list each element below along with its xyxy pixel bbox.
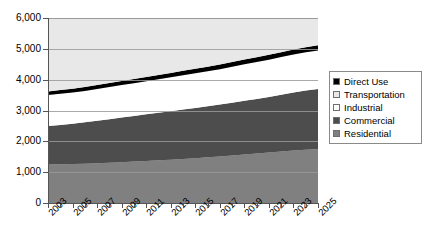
y-axis-label: 1,000: [1, 167, 41, 177]
gridline: [48, 141, 318, 142]
gridline: [48, 111, 318, 112]
legend-item-label: Industrial: [344, 102, 383, 113]
x-axis-tick: [109, 204, 110, 208]
legend-swatch-icon: [333, 78, 340, 85]
legend-item[interactable]: Commercial: [333, 114, 417, 127]
y-axis-label: 2,000: [1, 136, 41, 146]
y-axis-label: 3,000: [1, 106, 41, 116]
legend-item-label: Transportation: [344, 89, 405, 100]
gridline: [48, 80, 318, 81]
y-axis-label: 5,000: [1, 44, 41, 54]
legend-item[interactable]: Residential: [333, 127, 417, 140]
y-axis-tick: [43, 49, 48, 50]
chart-legend: Direct UseTransportationIndustrialCommer…: [329, 71, 422, 144]
y-axis-tick: [43, 172, 48, 173]
stacked-area-chart: 6,0005,0004,0003,0002,0001,0000 20032005…: [0, 0, 430, 250]
legend-item[interactable]: Direct Use: [333, 75, 417, 88]
y-axis-label: 0: [1, 198, 41, 208]
y-axis-line: [48, 18, 49, 204]
y-axis-tick: [43, 80, 48, 81]
x-axis-tick: [208, 204, 209, 208]
x-axis-tick: [257, 204, 258, 208]
y-axis-tick: [43, 18, 48, 19]
legend-swatch-icon: [333, 91, 340, 98]
legend-item[interactable]: Industrial: [333, 101, 417, 114]
legend-item-label: Commercial: [344, 115, 395, 126]
y-axis-tick: [43, 141, 48, 142]
x-axis-tick: [306, 204, 307, 208]
legend-item[interactable]: Transportation: [333, 88, 417, 101]
y-axis-tick: [43, 111, 48, 112]
x-axis-tick: [158, 204, 159, 208]
x-axis-tick: [134, 204, 135, 208]
legend-item-label: Residential: [344, 128, 391, 139]
gridline: [48, 49, 318, 50]
x-axis-tick: [281, 204, 282, 208]
legend-item-label: Direct Use: [344, 76, 388, 87]
legend-swatch-icon: [333, 104, 340, 111]
y-axis-label: 4,000: [1, 75, 41, 85]
legend-swatch-icon: [333, 130, 340, 137]
y-axis-label: 6,000: [1, 13, 41, 23]
x-axis-tick: [232, 204, 233, 208]
x-axis-tick: [60, 204, 61, 208]
legend-swatch-icon: [333, 117, 340, 124]
x-axis-label: 2025: [316, 195, 339, 218]
gridline: [48, 172, 318, 173]
x-axis-tick: [183, 204, 184, 208]
x-axis-tick: [85, 204, 86, 208]
